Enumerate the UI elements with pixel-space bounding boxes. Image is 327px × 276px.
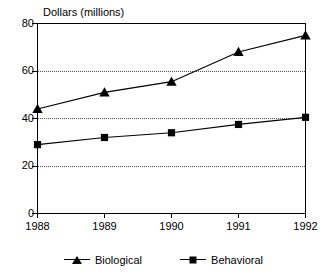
legend-item-biological: Biological: [64, 254, 142, 266]
series-behavioral: [34, 114, 309, 149]
data-point-biological-1992: [300, 30, 310, 39]
data-point-behavioral-1989: [101, 134, 108, 141]
legend-item-behavioral: Behavioral: [180, 254, 263, 266]
series-biological: [32, 30, 310, 113]
data-point-behavioral-1992: [302, 114, 309, 121]
series-layer: [0, 0, 327, 276]
data-point-biological-1990: [166, 76, 176, 85]
series-line-biological: [38, 35, 306, 109]
legend-label-behavioral: Behavioral: [211, 254, 263, 266]
data-point-behavioral-1990: [168, 129, 175, 136]
triangle-marker-icon: [64, 254, 90, 266]
square-marker-icon: [180, 254, 206, 266]
line-chart: Dollars (millions) 020406080 19881989199…: [0, 0, 327, 276]
data-point-behavioral-1991: [235, 121, 242, 128]
chart-legend: Biological Behavioral: [0, 250, 327, 270]
legend-label-biological: Biological: [95, 254, 142, 266]
data-point-behavioral-1988: [34, 141, 41, 148]
